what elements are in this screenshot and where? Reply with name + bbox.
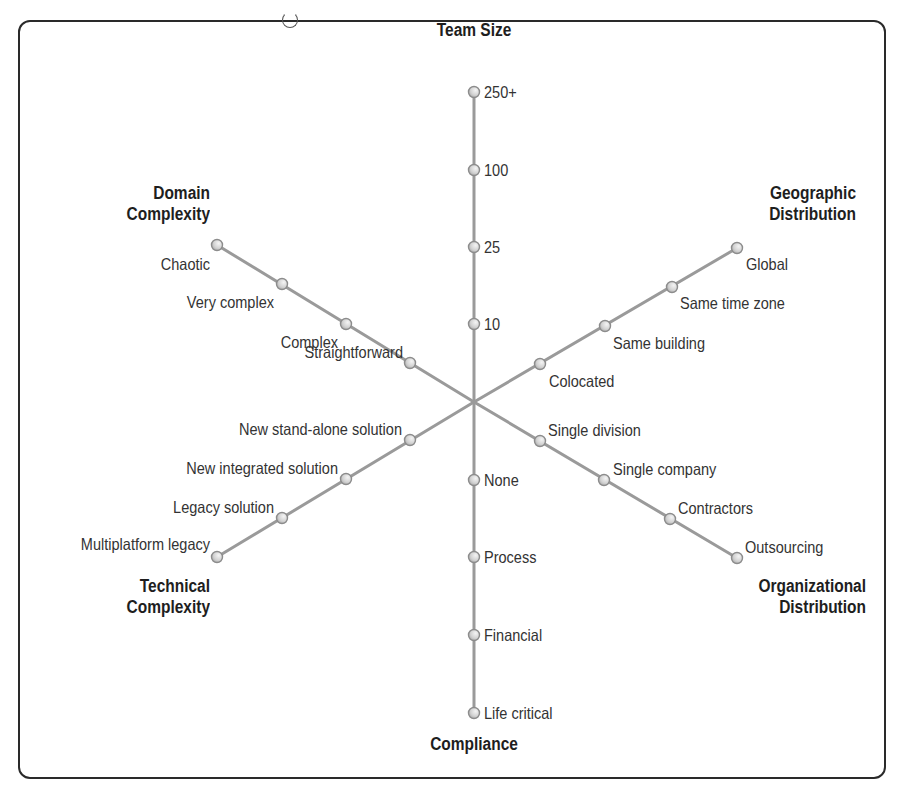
node-label-life-critical: Life critical — [484, 704, 553, 723]
axis-node-icon — [212, 552, 223, 563]
node-label-contractors: Contractors — [678, 499, 753, 518]
title-line: Technical — [81, 576, 210, 597]
axis-lines — [217, 92, 737, 713]
axis-title-team-size: Team Size — [405, 20, 543, 41]
axis-node-icon — [535, 436, 546, 447]
axis-node-icon — [732, 553, 743, 564]
node-label-colocated: Colocated — [549, 372, 614, 391]
scaling-factors-radar-diagram — [0, 0, 909, 798]
axis-node-icon — [341, 319, 352, 330]
axis-title-domain-complexity: Domain Complexity — [81, 183, 210, 225]
title-line: Distribution — [708, 597, 866, 618]
axis-title-organizational-distribution: Organizational Distribution — [708, 576, 866, 618]
axis-node-icon — [469, 319, 480, 330]
node-label-none: None — [484, 471, 519, 490]
axis-node-icon — [535, 359, 546, 370]
axis-node-icon — [277, 279, 288, 290]
node-label-single-company: Single company — [613, 460, 716, 479]
axis-node-icon — [599, 475, 610, 486]
node-label-legacy-solution: Legacy solution — [86, 498, 274, 517]
node-label-outsourcing: Outsourcing — [745, 538, 823, 557]
node-label-chaotic: Chaotic — [113, 255, 210, 274]
node-label-global: Global — [746, 255, 788, 274]
axis-node-icon — [277, 513, 288, 524]
axis-node-icon — [469, 630, 480, 641]
node-label-team-size-250-plus: 250+ — [484, 83, 517, 102]
node-label-team-size-10: 10 — [484, 315, 500, 334]
axis-node-icon — [405, 435, 416, 446]
axis-node-icon — [212, 240, 223, 251]
axis-node-icon — [469, 165, 480, 176]
axis-node-icon — [600, 321, 611, 332]
axis-node-icon — [469, 87, 480, 98]
axis-node-icon — [341, 474, 352, 485]
title-line: Geographic — [718, 183, 856, 204]
axis-title-technical-complexity: Technical Complexity — [81, 576, 210, 618]
node-label-same-time-zone: Same time zone — [680, 294, 785, 313]
title-line: Complexity — [81, 597, 210, 618]
node-label-process: Process — [484, 548, 536, 567]
node-label-team-size-100: 100 — [484, 161, 508, 180]
title-line: Domain — [81, 183, 210, 204]
title-line: Distribution — [718, 204, 856, 225]
axis-node-icon — [469, 552, 480, 563]
axis-node-icon — [405, 358, 416, 369]
axis-node-icon — [469, 708, 480, 719]
axis-node-icon — [665, 514, 676, 525]
axis-title-geographic-distribution: Geographic Distribution — [718, 183, 856, 225]
axis-title-compliance: Compliance — [405, 734, 543, 755]
axis-node-icon — [667, 282, 678, 293]
node-label-complex: Complex — [217, 333, 338, 352]
title-line: Organizational — [708, 576, 866, 597]
node-label-financial: Financial — [484, 626, 542, 645]
axis-node-icon — [469, 242, 480, 253]
node-label-new-integrated-solution: New integrated solution — [93, 459, 338, 478]
node-label-very-complex: Very complex — [121, 293, 274, 312]
node-label-single-division: Single division — [548, 421, 641, 440]
axis-node-icon — [732, 243, 743, 254]
node-label-team-size-25: 25 — [484, 238, 500, 257]
node-label-multiplatform-legacy: Multiplatform legacy — [43, 535, 210, 554]
title-line: Complexity — [81, 204, 210, 225]
axis-node-icon — [469, 475, 480, 486]
node-label-same-building: Same building — [613, 334, 705, 353]
node-label-new-stand-alone-solution: New stand-alone solution — [136, 420, 402, 439]
